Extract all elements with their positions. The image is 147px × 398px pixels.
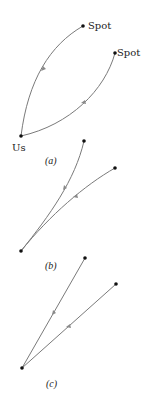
endpoint-b1 — [82, 139, 86, 143]
caption-b: (b) — [45, 260, 57, 272]
panel-a: Spot Spot Us (a) — [12, 20, 140, 167]
panel-c: (c) — [20, 256, 118, 390]
endpoint-c2 — [114, 282, 118, 286]
path-a2 — [21, 53, 115, 136]
endpoint-c1 — [83, 256, 87, 260]
arrow-icon — [52, 310, 56, 315]
panel-b: (b) — [19, 139, 117, 272]
path-b2 — [21, 168, 115, 251]
origin-c — [20, 366, 24, 370]
us-label: Us — [12, 142, 26, 153]
spot-label-2: Spot — [117, 47, 140, 58]
diagram-canvas: Spot Spot Us (a) (b) (c) — [0, 0, 147, 398]
caption-a: (a) — [45, 155, 57, 167]
path-a1 — [21, 26, 83, 136]
us-point — [19, 134, 23, 138]
caption-c: (c) — [46, 378, 58, 390]
arrow-icon — [81, 100, 86, 104]
spot-point-1 — [81, 24, 85, 28]
endpoint-b2 — [113, 166, 117, 170]
spot-label-1: Spot — [88, 20, 111, 31]
origin-b — [19, 249, 23, 253]
